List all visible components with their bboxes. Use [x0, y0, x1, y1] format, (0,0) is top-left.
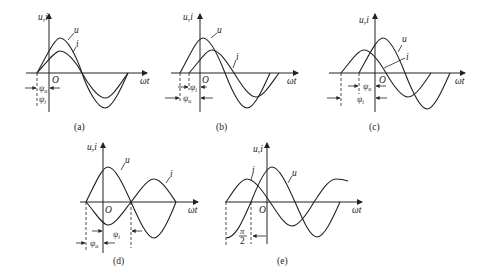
psi-u-label: ψu	[39, 83, 47, 94]
caption-e: (e)	[277, 256, 288, 267]
x-axis-label: ωt	[352, 205, 362, 215]
u-label: u	[217, 25, 222, 35]
psi-u-label: ψu	[363, 81, 371, 92]
origin-label: O	[379, 75, 386, 85]
u-label: u	[292, 168, 297, 178]
panel-d: u,i u i O ωt ψi ψu (d)	[76, 142, 198, 267]
u-label: u	[402, 34, 407, 44]
psi-i-label: ψi	[39, 94, 46, 105]
caption-c: (c)	[369, 122, 380, 133]
panel-a: u,i u i O ωt ψu ψi (a)	[25, 12, 150, 133]
psi-u-label: ψu	[90, 238, 98, 249]
psi-u-label: ψu	[183, 93, 191, 104]
panel-c: u,i u i O ωt ψu ψi (c)	[327, 14, 465, 133]
i-label: i	[252, 165, 255, 175]
y-axis-label: u,i	[183, 12, 193, 22]
psi-i-label: ψi	[190, 82, 197, 93]
panel-b: u,i u i O ωt ψi ψu (b)	[165, 12, 298, 133]
i-curve	[37, 51, 128, 98]
origin-label: O	[105, 205, 112, 215]
caption-b: (b)	[216, 122, 227, 133]
y-axis-label: u,i	[87, 142, 97, 152]
two-label: 2	[240, 236, 245, 246]
caption-d: (d)	[113, 256, 124, 267]
x-axis-label: ωt	[188, 205, 198, 215]
y-axis-label: u,i	[38, 12, 48, 22]
y-axis-label: u,i	[359, 15, 369, 25]
psi-i-label: ψi	[357, 94, 364, 105]
u-label: u	[125, 155, 130, 165]
i-label: i	[236, 52, 239, 62]
i-label: i	[170, 169, 173, 179]
origin-label: O	[52, 75, 59, 85]
x-axis-label: ωt	[140, 76, 150, 86]
psi-i-label: ψi	[113, 229, 120, 240]
i-label: i	[406, 52, 409, 62]
origin-label: O	[202, 75, 209, 85]
x-axis-label: ωt	[455, 76, 465, 86]
origin-label: O	[259, 205, 266, 215]
phase-diagram-figure: u,i u i O ωt ψu ψi (a) u,i u i O ωt ψi ψ…	[0, 0, 485, 279]
x-axis-label: ωt	[287, 76, 297, 86]
i-label: i	[76, 39, 79, 49]
pi-label: π	[240, 226, 245, 236]
y-axis-label: u,i	[253, 144, 263, 154]
caption-a: (a)	[74, 122, 85, 133]
panel-e: u,i i u O ωt π 2 (e)	[225, 143, 362, 267]
u-label: u	[74, 25, 79, 35]
